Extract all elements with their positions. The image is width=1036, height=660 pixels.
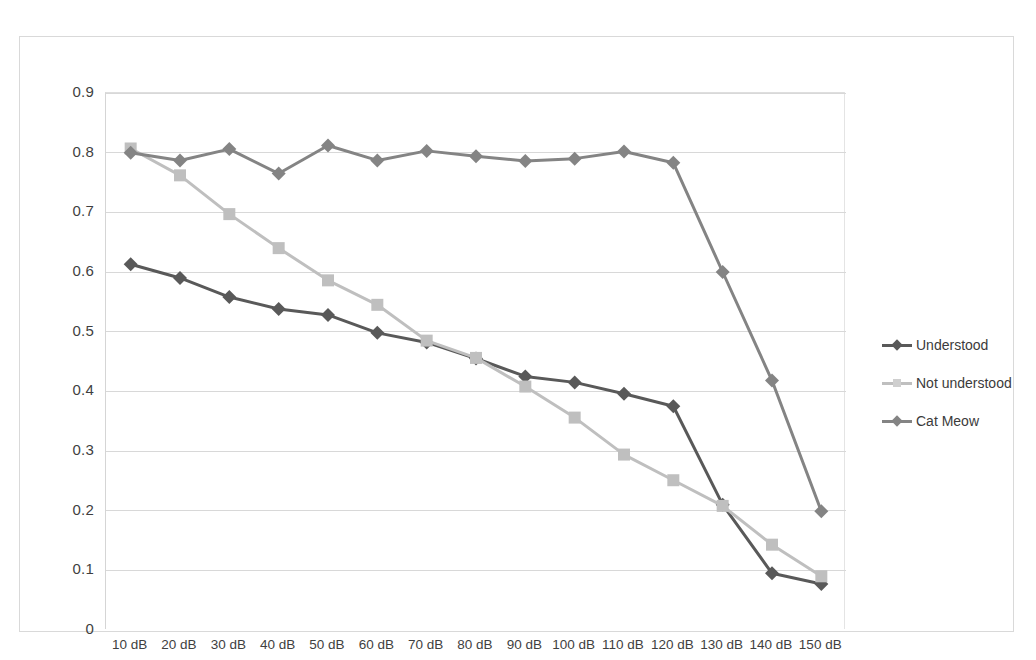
legend-swatch-understood [882, 339, 912, 351]
data-point-marker [666, 156, 680, 170]
legend-label-not-understood: Not understood [916, 375, 1012, 391]
x-axis-tick-label: 80 dB [450, 634, 499, 656]
x-axis-tick-label: 40 dB [253, 634, 302, 656]
data-point-marker [717, 500, 729, 512]
data-point-marker [174, 169, 186, 181]
x-axis-tick-label: 20 dB [154, 634, 203, 656]
y-axis-tick-label: 0.3 [34, 442, 94, 457]
data-point-marker [222, 142, 236, 156]
data-point-marker [223, 208, 235, 220]
data-point-marker [667, 474, 679, 486]
x-axis-tick-label: 120 dB [648, 634, 697, 656]
data-point-marker [568, 152, 582, 166]
y-axis: 0.90.80.70.60.50.40.30.20.10 [20, 92, 94, 629]
x-axis-tick-label: 150 dB [796, 634, 845, 656]
chart-frame: 0.90.80.70.60.50.40.30.20.10 10 dB20 dB3… [19, 36, 1014, 632]
x-axis-tick-label: 110 dB [598, 634, 647, 656]
x-axis: 10 dB20 dB30 dB40 dB50 dB60 dB70 dB80 dB… [105, 634, 845, 656]
y-axis-tick-label: 0.8 [34, 144, 94, 159]
plot-area [105, 92, 845, 629]
x-axis-tick-label: 140 dB [746, 634, 795, 656]
data-point-marker [469, 149, 483, 163]
legend-item-cat-meow[interactable]: Cat Meow [882, 402, 1032, 440]
data-point-marker [124, 257, 138, 271]
x-axis-tick-label: 130 dB [697, 634, 746, 656]
data-point-marker [322, 274, 334, 286]
series-line [131, 146, 822, 512]
data-point-marker [815, 570, 827, 582]
x-axis-tick-label: 100 dB [549, 634, 598, 656]
y-axis-tick-label: 0.2 [34, 502, 94, 517]
legend-item-understood[interactable]: Understood [882, 326, 1032, 364]
data-point-marker [222, 290, 236, 304]
data-point-marker [470, 352, 482, 364]
data-point-marker [371, 299, 383, 311]
series-line [131, 264, 822, 584]
data-point-marker [765, 374, 779, 388]
y-axis-tick-label: 0 [34, 621, 94, 636]
data-point-marker [173, 271, 187, 285]
legend-label-cat-meow: Cat Meow [916, 413, 979, 429]
x-axis-tick-label: 90 dB [500, 634, 549, 656]
legend-swatch-not-understood [882, 377, 912, 389]
data-point-marker [370, 326, 384, 340]
data-point-marker [173, 153, 187, 167]
data-point-marker [321, 139, 335, 153]
line-chart-svg [106, 93, 846, 630]
data-point-marker [617, 144, 631, 158]
y-axis-tick-label: 0.1 [34, 561, 94, 576]
data-point-marker [568, 375, 582, 389]
data-point-marker [421, 335, 433, 347]
chart-legend: Understood Not understood Cat Meow [882, 326, 1032, 440]
y-axis-tick-label: 0.6 [34, 263, 94, 278]
series-understood [124, 257, 829, 591]
data-point-marker [666, 399, 680, 413]
legend-item-not-understood[interactable]: Not understood [882, 364, 1032, 402]
legend-label-understood: Understood [916, 337, 988, 353]
data-point-marker [569, 412, 581, 424]
y-axis-tick-label: 0.7 [34, 203, 94, 218]
y-axis-tick-label: 0.9 [34, 84, 94, 99]
data-point-marker [814, 504, 828, 518]
data-point-marker [370, 153, 384, 167]
x-axis-tick-label: 30 dB [204, 634, 253, 656]
data-point-marker [321, 308, 335, 322]
data-point-marker [273, 242, 285, 254]
data-point-marker [618, 449, 630, 461]
series-cat-meow [124, 139, 829, 519]
data-point-marker [272, 167, 286, 181]
x-axis-tick-label: 50 dB [302, 634, 351, 656]
x-axis-tick-label: 60 dB [352, 634, 401, 656]
legend-swatch-cat-meow [882, 415, 912, 427]
page-top-artifact [0, 0, 1036, 22]
data-point-marker [518, 154, 532, 168]
data-point-marker [272, 302, 286, 316]
x-axis-tick-label: 10 dB [105, 634, 154, 656]
x-axis-tick-label: 70 dB [401, 634, 450, 656]
data-point-marker [617, 387, 631, 401]
data-point-marker [766, 539, 778, 551]
data-point-marker [716, 265, 730, 279]
y-axis-tick-label: 0.5 [34, 323, 94, 338]
series-not-understood [125, 142, 828, 582]
data-point-marker [420, 144, 434, 158]
y-axis-tick-label: 0.4 [34, 382, 94, 397]
data-point-marker [519, 381, 531, 393]
